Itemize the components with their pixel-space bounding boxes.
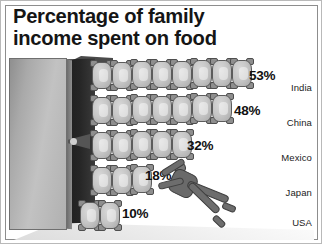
sack-row-china (90, 95, 238, 129)
country-label-china: China (258, 117, 312, 128)
mexico-pointer-dot (70, 138, 77, 145)
worker-foot-a (221, 202, 237, 214)
chart-title: Percentage of family income spent on foo… (13, 5, 253, 49)
worker-figure-icon (156, 160, 240, 234)
value-label-china: 48% (234, 103, 260, 118)
worker-foot-b (212, 214, 227, 229)
value-label-india: 53% (249, 68, 275, 83)
country-label-india: India (258, 82, 312, 93)
country-label-panel (9, 58, 67, 230)
sack-icon (210, 93, 234, 124)
pictogram-plot-area: IndiaChinaMexicoJapanUSA 53%48%32%18%10% (6, 56, 317, 240)
country-label-mexico: Mexico (258, 152, 312, 163)
sack-row-india (90, 60, 258, 94)
sack-row-usa (78, 200, 126, 234)
chart-frame: Percentage of family income spent on foo… (0, 0, 322, 244)
country-label-usa: USA (258, 217, 312, 228)
value-label-usa: 10% (122, 206, 148, 221)
country-label-japan: Japan (258, 187, 312, 198)
sack-icon (98, 200, 122, 231)
value-label-mexico: 32% (187, 138, 213, 153)
